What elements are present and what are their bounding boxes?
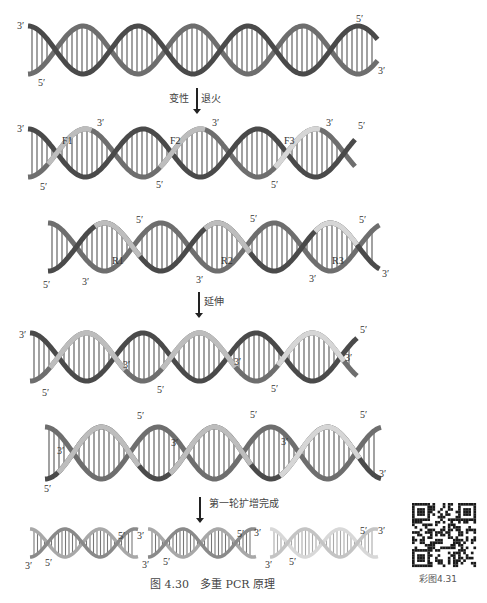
qr-module [430,529,433,532]
qr-module [458,539,461,542]
qr-module [461,549,464,552]
qr-module [427,547,430,550]
qr-module [453,554,456,557]
qr-module [448,552,451,555]
qr-module [412,503,415,506]
qr-module [422,541,425,544]
qr-module [412,518,415,521]
qr-module [420,559,423,562]
qr-module [461,547,464,550]
qr-module [432,503,435,506]
qr-module [448,508,451,511]
qr-module [443,503,446,506]
qr-module [412,554,415,557]
qr-module [430,547,433,550]
qr-module [430,562,433,565]
qr-module [458,503,461,506]
qr-module [440,539,443,542]
qr-module [435,534,438,537]
dna-strand-top [28,26,378,74]
strand-end-label: 5′ [271,384,278,394]
qr-module [440,513,443,516]
strand-end-label: 3′ [97,118,104,128]
qr-module [417,511,420,514]
qr-module [415,564,418,567]
qr-module [422,513,425,516]
qr-module [458,544,461,547]
qr-module [463,503,466,506]
qr-module [463,559,466,562]
qr-module [466,508,469,511]
qr-module [420,513,423,516]
qr-module [430,531,433,534]
step-label-denature: 变性 [169,94,189,104]
qr-module [432,547,435,550]
qr-module [440,562,443,565]
qr-module [471,552,474,555]
qr-module [412,549,415,552]
qr-module [466,513,469,516]
qr-module [417,531,420,534]
template-dna-helix [28,26,378,74]
qr-module [473,511,476,514]
strand-end-label: 3′ [17,124,24,134]
qr-module [432,506,435,509]
qr-module [422,557,425,560]
strand-end-label: 5′ [156,180,163,190]
strand-end-label: 3′ [137,531,144,541]
qr-module [463,518,466,521]
qr-module [427,506,430,509]
qr-module [422,554,425,557]
qr-module [473,531,476,534]
strand-end-label: 3′ [378,526,385,536]
qr-module [430,523,433,526]
qr-module [456,562,459,565]
qr-module [432,508,435,511]
qr-module [450,544,453,547]
strand-end-label: 3′ [171,438,178,448]
qr-module [473,539,476,542]
qr-module [450,518,453,521]
qr-module [412,539,415,542]
dna-strand-bottom [28,26,378,74]
strand-end-label: 3′ [19,330,26,340]
qr-module [448,557,451,560]
qr-module [473,513,476,516]
qr-module [448,536,451,539]
qr-module [440,541,443,544]
qr-module [448,534,451,537]
qr-module [438,541,441,544]
qr-module [438,511,441,514]
strand-end-label: 3′ [254,528,261,538]
qr-module [466,547,469,550]
qr-module [448,559,451,562]
qr-module [461,557,464,560]
qr-module [463,541,466,544]
qr-module [458,506,461,509]
qr-module [422,523,425,526]
qr-module [458,521,461,524]
qr-module [427,518,430,521]
qr-module [422,508,425,511]
qr-module [420,518,423,521]
qr-module [448,523,451,526]
qr-module [435,531,438,534]
qr-module [445,513,448,516]
qr-module [412,541,415,544]
qr-module [412,506,415,509]
qr-module [458,513,461,516]
qr-module [443,564,446,567]
qr-module [430,554,433,557]
strand-end-label: 3′ [212,118,219,128]
qr-module [420,541,423,544]
qr-module [427,557,430,560]
step-arrow [198,292,200,314]
qr-module [461,562,464,565]
strand-end-label: 5′ [271,180,278,190]
qr-module [458,541,461,544]
qr-module [471,541,474,544]
qr-code[interactable] [412,503,476,567]
qr-module [453,526,456,529]
qr-module [432,513,435,516]
annealed-forward-helix [28,129,355,177]
